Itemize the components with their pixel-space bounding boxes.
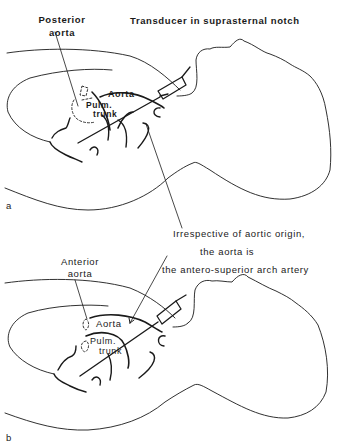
heart-outline-a bbox=[50, 118, 82, 162]
label-pulm-trunk-b: Pulm. trunk bbox=[90, 336, 122, 356]
esophagus-curve-b bbox=[139, 352, 155, 378]
callout-line-anterior-b bbox=[75, 280, 87, 319]
panel-a-title: Transducer in suprasternal notch bbox=[130, 15, 300, 26]
panel-a-drawing bbox=[5, 32, 331, 228]
caption-line1: Irrespective of aortic origin, bbox=[173, 228, 305, 239]
label-anterior-line2: aorta bbox=[50, 268, 110, 280]
callout-line-posterior-a bbox=[55, 32, 78, 106]
jaw-line-b bbox=[173, 323, 188, 327]
label-pulm-b-line1: Pulm. bbox=[90, 336, 122, 346]
panel-b-drawing bbox=[5, 256, 328, 430]
head-profile-a bbox=[5, 39, 331, 210]
caption-line3: the antero-superior arch artery bbox=[162, 264, 309, 275]
transducer-probe-b bbox=[157, 295, 186, 324]
head-profile-b bbox=[5, 275, 328, 431]
spine-curve-a bbox=[90, 147, 98, 155]
label-anterior-aorta: Anterior aorta bbox=[50, 256, 110, 280]
panel-a-label: a bbox=[6, 200, 12, 211]
label-pulm-b-line2: trunk bbox=[90, 346, 122, 356]
transducer-probe-a bbox=[158, 67, 190, 99]
label-posterior-line1: Posterior bbox=[32, 13, 92, 26]
panel-b-label: b bbox=[6, 432, 12, 443]
caption-line2: the aorta is bbox=[200, 246, 254, 257]
jaw-line-a bbox=[177, 93, 192, 96]
label-aorta-a: Aorta bbox=[108, 89, 135, 99]
trachea-curve-a bbox=[154, 108, 160, 117]
label-pulm-a-line2: trunk bbox=[86, 110, 117, 119]
pulm-inner-b bbox=[108, 354, 111, 380]
heart-outline-b bbox=[54, 346, 86, 392]
label-posterior-aorta: Posterior aorta bbox=[32, 13, 92, 39]
caption-pointer-a bbox=[146, 124, 182, 228]
label-anterior-line1: Anterior bbox=[50, 256, 110, 268]
label-posterior-line2: aorta bbox=[32, 26, 92, 39]
label-pulm-trunk-a: Pulm. trunk bbox=[86, 101, 117, 119]
label-aorta-b: Aorta bbox=[96, 318, 122, 329]
trachea-curve-b bbox=[158, 336, 165, 346]
spine-curve-b bbox=[92, 377, 100, 385]
